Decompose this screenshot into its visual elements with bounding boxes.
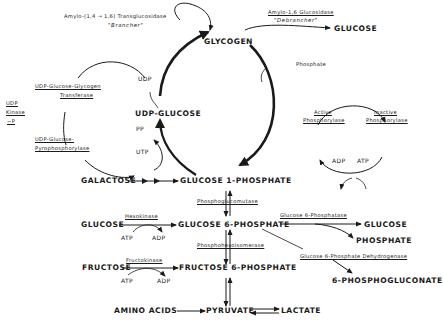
- glycogen-label: GLYCOGEN: [204, 38, 253, 46]
- adp-phosphorylase-cofactor: ADP: [332, 158, 346, 164]
- lactate-label: LACTATE: [281, 307, 321, 315]
- active-phosphorylase-line2: Phosphorylase: [303, 118, 345, 123]
- fructokinase-label: Fructokinase: [126, 258, 163, 263]
- 6-phosphogluconate-label: 6-PHOSPHOGLUCONATE: [332, 277, 443, 285]
- glycogen-transferase-line1: UDP-Glucose-Glycogen: [35, 84, 101, 89]
- galactose-label: GALACTOSE: [81, 177, 136, 185]
- brancher-alias: "Brancher": [108, 23, 144, 28]
- active-phosphorylase-line1: Active: [314, 110, 332, 115]
- atp-phosphorylase-cofactor: ATP: [357, 158, 369, 164]
- phosphorylase-arrow: [240, 45, 274, 165]
- glucose-1-phosphate-label: GLUCOSE 1-PHOSPHATE: [180, 177, 292, 185]
- udp-cofactor: UDP: [138, 76, 152, 82]
- g6p-dehydrogenase-label: Glucose 6-Phosphate Dehydrogenase: [300, 254, 407, 259]
- debrancher-alias: "Debrancher": [274, 18, 318, 23]
- adp-fructokinase-cofactor: ADP: [157, 278, 171, 284]
- glucose-6-phosphate-label: GLUCOSE 6-PHOSPHATE: [178, 221, 290, 229]
- synthesis-arrow: [160, 32, 208, 96]
- debrancher-enzyme-name: Amylo-1,6 Glucosidase: [268, 10, 334, 15]
- debrancher-arrow: [245, 25, 330, 30]
- utp-cofactor: UTP: [136, 149, 149, 155]
- utp-arrow: [85, 160, 134, 177]
- pp-cofactor: PP: [136, 126, 144, 132]
- brancher-loop-arrow: [175, 3, 211, 30]
- fructose-label: FRUCTOSE: [82, 264, 131, 272]
- atp-fructokinase-cofactor: ATP: [121, 278, 133, 284]
- udp-kinase-line1: UDP: [6, 101, 18, 106]
- adp-hexokinase-cofactor: ADP: [152, 235, 166, 241]
- fructose-6-phosphate-label: FRUCTOSE 6-PHOSPHATE: [179, 264, 297, 272]
- inactive-phosphorylase-line1: Inactive: [374, 110, 397, 115]
- pyrophosphorylase-line1: UDP-Glucose-: [35, 137, 74, 142]
- phosphohexoisomerase-label: Phosphohexoisomerase: [197, 243, 264, 248]
- udp-kinase-line2: Kinase: [6, 110, 25, 115]
- udp-arc: [78, 62, 145, 78]
- hexokinase-label: Hexokinase: [125, 214, 158, 219]
- pyruvate-label: PYRUVATE: [206, 307, 254, 315]
- udp-glucose-label: UDP-GLUCOSE: [135, 110, 201, 118]
- g1p-to-udpg-arrow: [160, 120, 196, 175]
- glycogen-transferase-line2: Transferase: [60, 93, 93, 98]
- udp-kinase-line3: ~P: [7, 119, 15, 124]
- inactive-phosphorylase-line2: Phosphorylase: [366, 118, 408, 123]
- pyrophosphorylase-line2: Pyrophosphorylase: [35, 146, 89, 151]
- phosphoglucomutase-label: Phosphoglucomutase: [197, 199, 258, 204]
- brancher-enzyme-name: Amylo-(1,4 → 1,6) Transglucosidase: [64, 14, 167, 19]
- phosphate-product-label: PHOSPHATE: [356, 237, 412, 245]
- phosphorylase-inactivation-arrow: [320, 157, 382, 173]
- glucose-top-label: GLUCOSE: [334, 25, 377, 33]
- glucose-left-label: GLUCOSE: [81, 221, 124, 229]
- atp-hexokinase-cofactor: ATP: [121, 235, 133, 241]
- amino-acids-label: AMINO ACIDS: [114, 307, 177, 315]
- phosphate-cofactor: Phosphate: [296, 62, 326, 67]
- glucose-right-label: GLUCOSE: [364, 221, 407, 229]
- glucose-6-phosphatase-label: Glucose 6-Phosphatase: [280, 213, 347, 218]
